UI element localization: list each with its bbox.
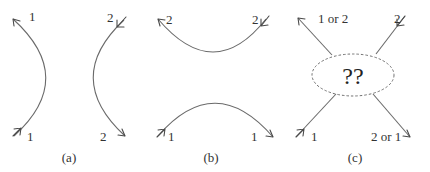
arrow-icon xyxy=(117,17,126,27)
label-particle-2-bottom: 2 xyxy=(100,129,107,144)
label-particle-1-bottom: 1 xyxy=(27,129,34,144)
panel-a: 1 1 2 2 (a) xyxy=(13,9,126,165)
particle-2-path xyxy=(158,19,266,52)
arrow-icon xyxy=(261,16,269,26)
label-particle-2-left: 2 xyxy=(166,12,173,27)
particle-2-path xyxy=(93,20,125,136)
label-particle-1-left: 1 xyxy=(168,129,175,144)
label-top-left: 1 or 2 xyxy=(318,11,348,26)
arrow-icon xyxy=(13,128,21,136)
unknown-label: ?? xyxy=(342,63,363,89)
panel-b: 2 2 1 1 (b) xyxy=(157,12,273,165)
label-particle-1-top: 1 xyxy=(29,9,36,24)
scattering-diagram: 1 1 2 2 (a) 2 2 xyxy=(0,0,430,172)
label-bottom-right: 2 or 1 xyxy=(371,129,401,144)
diagram-canvas: 1 1 2 2 (a) 2 2 xyxy=(0,0,430,172)
caption-b: (b) xyxy=(203,150,218,165)
label-top-right: 2 xyxy=(394,11,401,26)
particle-1-path xyxy=(13,19,46,136)
label-bottom-left: 1 xyxy=(311,129,318,144)
caption-c: (c) xyxy=(348,150,362,165)
arrow-icon xyxy=(157,129,165,137)
panel-c: ?? 1 or 2 2 1 2 or 1 (c) xyxy=(296,11,410,165)
arrow-icon xyxy=(296,129,304,137)
label-particle-1-right: 1 xyxy=(251,129,258,144)
caption-a: (a) xyxy=(62,150,76,165)
label-particle-2-right: 2 xyxy=(252,12,259,27)
label-particle-2-top: 2 xyxy=(107,10,114,25)
